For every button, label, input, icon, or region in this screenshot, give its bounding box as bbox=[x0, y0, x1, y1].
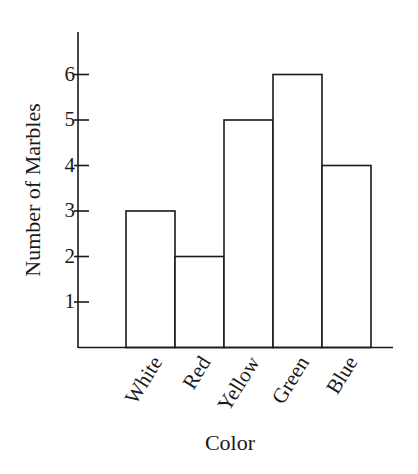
bars-group bbox=[126, 75, 371, 348]
bar-white bbox=[126, 211, 175, 348]
y-axis-label: Number of Marbles bbox=[20, 103, 46, 277]
y-tick-label: 2 bbox=[65, 243, 76, 268]
x-axis-label: Color bbox=[205, 430, 255, 456]
bar-red bbox=[175, 257, 224, 348]
y-tick-label: 3 bbox=[65, 198, 76, 223]
y-tick-label: 1 bbox=[65, 289, 76, 314]
bar-blue bbox=[322, 166, 371, 348]
y-tick-label: 5 bbox=[65, 107, 76, 132]
bar-yellow bbox=[224, 120, 273, 348]
y-ticks bbox=[74, 75, 89, 303]
y-tick-label: 6 bbox=[65, 61, 76, 86]
bar-chart bbox=[0, 0, 418, 474]
y-tick-label: 4 bbox=[65, 152, 76, 177]
bar-green bbox=[273, 75, 322, 348]
